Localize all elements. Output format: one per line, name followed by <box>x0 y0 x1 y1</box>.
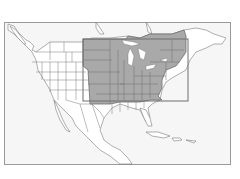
highlighted-region <box>83 30 188 104</box>
north-america-map <box>0 0 240 179</box>
